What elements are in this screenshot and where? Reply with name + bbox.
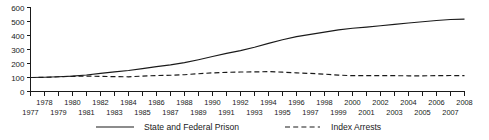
line-chart: 0100200300400500600 19781980198219841986…	[0, 0, 489, 140]
series-line-state-and-federal-prison	[31, 19, 465, 77]
x-tick-label: 1993	[246, 108, 262, 117]
x-tick-label: 1997	[302, 108, 318, 117]
x-tick-label: 1988	[176, 98, 192, 107]
x-axis: 1978198019821984198619881990199219941996…	[22, 92, 472, 118]
x-tick-label: 2005	[414, 108, 430, 117]
y-tick-label: 0	[20, 88, 25, 97]
x-tick-label: 2001	[358, 108, 374, 117]
x-tick-label: 1978	[36, 98, 52, 107]
x-tick-label: 2006	[428, 98, 444, 107]
data-series-group	[31, 19, 465, 77]
x-tick-label: 2004	[400, 98, 416, 107]
x-tick-label: 1991	[218, 108, 234, 117]
x-tick-label: 2007	[442, 108, 458, 117]
chart-legend: State and Federal PrisonIndex Arrests	[96, 122, 381, 132]
x-tick-label: 1982	[92, 98, 108, 107]
y-tick-label: 100	[11, 74, 25, 83]
y-tick-label: 500	[11, 18, 25, 27]
series-line-index-arrests	[31, 72, 465, 78]
x-tick-label: 1981	[78, 108, 94, 117]
x-tick-label: 1994	[260, 98, 276, 107]
x-tick-label: 1977	[22, 108, 38, 117]
y-tick-labels: 0100200300400500600	[11, 4, 25, 97]
y-axis: 0100200300400500600	[11, 4, 30, 97]
x-tick-labels-bottom-row: 1977197919811983198519871989199119931995…	[22, 108, 458, 117]
y-tick-label: 400	[11, 32, 25, 41]
x-tick-label: 1985	[134, 108, 150, 117]
x-tick-label: 1996	[288, 98, 304, 107]
x-tick-label: 1987	[162, 108, 178, 117]
x-tick-label: 2002	[372, 98, 388, 107]
x-tick-label: 1995	[274, 108, 290, 117]
x-tick-label: 1984	[120, 98, 136, 107]
y-tick-label: 200	[11, 60, 25, 69]
legend-label: Index Arrests	[331, 122, 381, 132]
x-tick-label: 1989	[190, 108, 206, 117]
x-tick-label: 1992	[232, 98, 248, 107]
x-tick-label: 2003	[386, 108, 402, 117]
x-tick-label: 1990	[204, 98, 220, 107]
y-tick-marks	[27, 8, 31, 92]
x-tick-labels-top-row: 1978198019821984198619881990199219941996…	[36, 98, 472, 107]
legend-label: State and Federal Prison	[144, 122, 239, 132]
x-tick-label: 2008	[456, 98, 472, 107]
x-tick-label: 1979	[50, 108, 66, 117]
x-tick-marks	[31, 92, 465, 97]
x-tick-label: 1998	[316, 98, 332, 107]
x-tick-label: 2000	[344, 98, 360, 107]
x-tick-label: 1980	[64, 98, 80, 107]
chart-plot-area: 0100200300400500600 19781980198219841986…	[0, 0, 489, 140]
y-tick-label: 300	[11, 46, 25, 55]
x-tick-label: 1983	[106, 108, 122, 117]
x-tick-label: 1999	[330, 108, 346, 117]
y-tick-label: 600	[11, 4, 25, 13]
x-tick-label: 1986	[148, 98, 164, 107]
